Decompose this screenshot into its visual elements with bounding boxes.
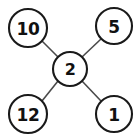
edge-center-to-top-left [42,41,58,57]
node-top-left[interactable]: 10 [9,9,47,47]
node-bottom-left[interactable]: 12 [9,95,47,133]
node-label-center: 2 [65,60,76,79]
edge-center-to-bottom-left [42,81,58,101]
node-center[interactable]: 2 [53,52,87,86]
edge-center-to-top-right [82,39,101,57]
node-label-bottom-right: 1 [108,105,119,125]
graph-diagram: 10 5 12 1 2 [0,0,139,138]
graph-svg-canvas: 10 5 12 1 2 [0,0,139,138]
node-bottom-right[interactable]: 1 [96,96,132,132]
edge-center-to-bottom-right [82,81,101,101]
node-label-bottom-left: 12 [17,105,40,125]
node-label-top-right: 5 [108,17,119,37]
node-label-top-left: 10 [17,19,40,39]
node-top-right[interactable]: 5 [96,8,132,44]
